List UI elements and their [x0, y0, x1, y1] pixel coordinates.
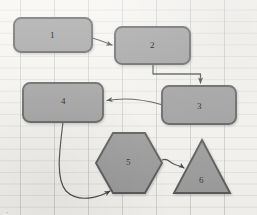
footer-smudge-text: . — [6, 204, 253, 215]
edge-5-to-6 — [162, 159, 184, 168]
graph-paper-canvas: 1 2 3 4 5 6 . — [0, 0, 257, 215]
node-2-label: 2 — [150, 40, 155, 50]
node-4-label: 4 — [61, 96, 66, 106]
node-1-label: 1 — [50, 30, 55, 40]
node-5-label: 5 — [126, 157, 131, 167]
flowchart-svg — [0, 0, 257, 215]
edge-3-to-4 — [107, 99, 161, 105]
edge-1-to-2 — [92, 38, 112, 45]
node-6-label: 6 — [199, 175, 204, 185]
node-3-label: 3 — [197, 101, 202, 111]
edge-2-to-3 — [153, 64, 201, 83]
